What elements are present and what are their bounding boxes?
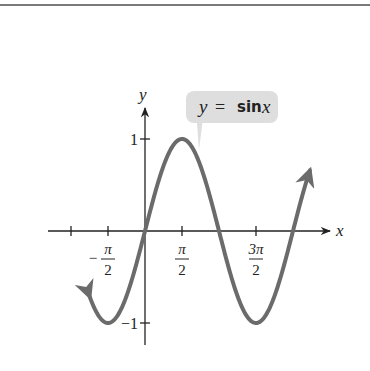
x-tick-sign: − bbox=[89, 250, 97, 266]
callout-x: x bbox=[261, 96, 271, 117]
callout-eq: = bbox=[215, 97, 225, 117]
x-tick-numerator: π bbox=[178, 241, 186, 257]
sine-graph: y = sin x x y π2−π23π21−1 bbox=[0, 0, 370, 371]
y-tick-label: 1 bbox=[130, 131, 138, 148]
x-tick-denominator: 2 bbox=[104, 262, 112, 278]
y-axis-label: y bbox=[137, 85, 147, 104]
x-tick-numerator: 3π bbox=[247, 241, 264, 257]
equation-callout: y = sin x bbox=[186, 91, 278, 150]
callout-y: y bbox=[197, 96, 208, 117]
x-tick-denominator: 2 bbox=[252, 262, 260, 278]
callout-fn: sin bbox=[237, 98, 262, 116]
x-axis-label: x bbox=[335, 221, 344, 240]
x-tick-numerator: π bbox=[104, 241, 112, 257]
y-tick-label: −1 bbox=[121, 315, 138, 332]
x-tick-denominator: 2 bbox=[178, 262, 186, 278]
